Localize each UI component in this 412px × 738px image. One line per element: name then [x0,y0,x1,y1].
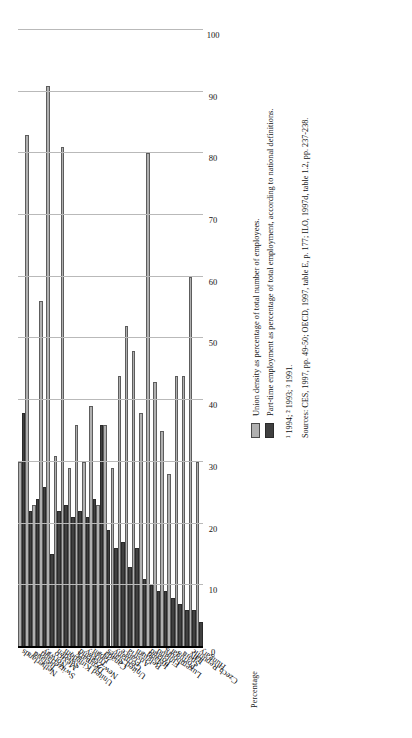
tick-label-0: 0 [211,647,215,657]
bar-union-density [196,462,200,647]
bar-row [189,30,196,647]
legend-label-part-time: Part-time employment as percentage of to… [264,18,277,416]
gridline-60 [18,276,203,277]
bar-row [139,30,146,647]
footnote-years: ¹ 1994; ² 1993; ³ 1991. [284,18,297,438]
tick-label-80: 80 [209,153,218,163]
tick-label-100: 100 [207,30,220,40]
gridline-10 [18,584,203,585]
sources-line: Sources: CES, 1997, pp. 49-50; OECD, 199… [300,18,313,438]
bar-row [46,30,53,647]
plot-area: NetherlandsIceland 1Switzerland 1NorwayM… [18,30,203,648]
bar-row [89,30,96,647]
bar-row [132,30,139,647]
tick-label-70: 70 [209,215,218,225]
bar-row [175,30,182,647]
bar-row [39,30,46,647]
tick-label-30: 30 [209,462,218,472]
footnotes: ¹ 1994; ² 1993; ³ 1991. [284,18,297,438]
tick-label-90: 90 [209,92,218,102]
bar-row [167,30,174,647]
bar-chart-figure: Percentage NetherlandsIceland 1Switzerla… [0,0,412,738]
bar-row [68,30,75,647]
bar-part-time [199,622,203,647]
legend-swatch-light-icon [251,423,260,438]
gridline-20 [18,523,203,524]
legend-item-part-time: Part-time employment as percentage of to… [264,18,277,438]
gridline-100 [18,29,203,30]
bar-row [96,30,103,647]
bar-row [146,30,153,647]
bar-row [111,30,118,647]
axis-title-percentage: Percentage [250,671,259,708]
bar-row [103,30,110,647]
gridline-70 [18,214,203,215]
axis-zero-line [18,646,203,647]
bar-union-density [189,277,193,647]
legend-item-union-density: Union density as percentage of total num… [250,18,263,438]
gridline-80 [18,152,203,153]
plot-area-wrapper: Percentage NetherlandsIceland 1Switzerla… [18,30,225,710]
tick-label-20: 20 [209,524,218,534]
legend-label-union-density: Union density as percentage of total num… [250,18,263,416]
rotated-page-canvas: Percentage NetherlandsIceland 1Switzerla… [0,0,412,738]
tick-label-60: 60 [209,277,218,287]
gridline-50 [18,338,203,339]
bar-row [153,30,160,647]
tick-label-50: 50 [209,339,218,349]
bar-union-density [146,153,150,647]
bar-row [54,30,61,647]
bar-row [160,30,167,647]
tick-label-40: 40 [209,400,218,410]
gridline-30 [18,461,203,462]
bar-row [32,30,39,647]
bar-row [75,30,82,647]
tick-label-10: 10 [209,585,218,595]
bar-row [18,30,25,647]
bar-row [118,30,125,647]
legend-swatch-dark-icon [265,423,274,438]
gridline-90 [18,91,203,92]
bar-row [82,30,89,647]
bar-row [61,30,68,647]
legend-and-notes-block: Union density as percentage of total num… [250,18,312,438]
bar-row [125,30,132,647]
bar-rows-container: NetherlandsIceland 1Switzerland 1NorwayM… [18,30,203,647]
gridline-40 [18,399,203,400]
bar-row [25,30,32,647]
bar-row [196,30,203,647]
bar-row [182,30,189,647]
bar-union-density [182,376,186,647]
